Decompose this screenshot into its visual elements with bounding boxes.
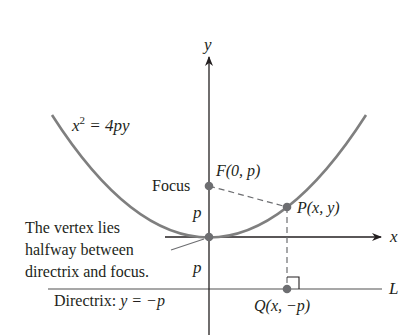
y-axis-label: y	[202, 35, 212, 54]
vertex-note-line-2: halfway between	[25, 241, 134, 259]
vertex-point	[205, 233, 214, 242]
distance-label-upper: p	[192, 203, 202, 222]
distance-label-lower: p	[192, 258, 202, 277]
focus-coord-label: F(0, p)	[215, 162, 260, 180]
point-p	[283, 203, 292, 212]
vertex-pointer-line	[171, 239, 204, 250]
directrix-line-label: L	[388, 279, 398, 298]
focus-point	[205, 182, 214, 191]
point-p-label: P(x, y)	[296, 199, 340, 217]
focus-label: Focus	[152, 177, 190, 194]
equation-label: x2 = 4py	[71, 114, 130, 135]
point-q	[283, 285, 292, 294]
focus-to-p-dashed	[209, 186, 287, 207]
vertex-note-line-3: directrix and focus.	[25, 263, 149, 280]
point-q-label: Q(x, −p)	[254, 297, 310, 315]
parabola-diagram: y x x2 = 4py Focus F(0, p) p p P(x, y) Q…	[0, 0, 417, 335]
x-axis-label: x	[389, 227, 398, 246]
directrix-label: Directrix: y = −p	[54, 292, 165, 310]
vertex-note-line-1: The vertex lies	[25, 219, 120, 236]
